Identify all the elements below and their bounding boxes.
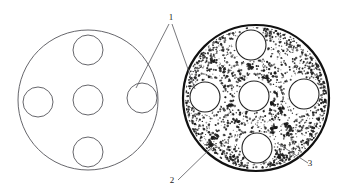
stipple-dot — [219, 58, 220, 59]
stipple-dot — [273, 110, 274, 111]
stipple-dot — [231, 90, 232, 91]
stipple-dot — [300, 129, 302, 131]
stipple-dot — [303, 51, 304, 52]
stipple-dot — [255, 123, 256, 124]
stipple-dot — [313, 138, 314, 139]
stipple-dot — [276, 116, 277, 117]
stipple-dot — [246, 162, 248, 164]
stipple-dot — [314, 64, 315, 65]
stipple-dot — [252, 126, 254, 128]
stipple-dot — [212, 113, 213, 114]
stipple-dot — [211, 136, 212, 137]
callout-1-label: 1 — [169, 12, 174, 22]
stipple-dot — [308, 62, 310, 64]
stipple-dot — [221, 82, 224, 85]
stipple-dot — [267, 77, 268, 78]
stipple-dot — [306, 138, 308, 140]
stipple-dot — [262, 65, 263, 66]
stipple-dot — [324, 86, 325, 87]
stipple-dot — [324, 110, 326, 112]
stipple-dot — [286, 51, 287, 52]
stipple-dot — [229, 100, 232, 103]
stipple-dot — [283, 60, 285, 62]
stipple-dot — [239, 86, 240, 87]
stipple-dot — [260, 116, 262, 118]
stipple-dot — [227, 120, 229, 122]
stipple-dot — [288, 117, 290, 119]
stipple-dot — [278, 38, 279, 39]
stipple-dot — [200, 65, 201, 66]
stipple-dot — [289, 160, 290, 161]
stipple-dot — [274, 138, 275, 139]
stipple-dot — [188, 79, 190, 81]
stipple-dot — [251, 122, 253, 124]
stipple-dot — [258, 77, 260, 79]
stipple-dot — [211, 132, 214, 135]
stipple-dot — [280, 62, 281, 63]
stipple-dot — [324, 112, 325, 113]
stipple-dot — [228, 136, 230, 138]
stipple-dot — [292, 41, 293, 42]
stipple-dot — [253, 167, 254, 168]
stipple-dot — [275, 126, 278, 129]
stipple-dot — [201, 140, 202, 141]
stipple-dot — [269, 136, 271, 138]
stipple-dot — [227, 53, 229, 55]
stipple-dot — [227, 69, 229, 71]
stipple-dot — [222, 54, 224, 56]
stipple-dot — [205, 114, 206, 115]
stipple-dot — [215, 77, 217, 79]
stipple-dot — [220, 145, 222, 147]
stipple-dot — [271, 115, 273, 117]
stipple-dot — [273, 84, 274, 85]
stipple-dot — [263, 69, 266, 72]
stipple-dot — [256, 65, 258, 67]
stipple-dot — [283, 83, 284, 84]
stipple-dot — [284, 93, 285, 94]
stipple-dot — [291, 75, 292, 76]
stipple-dot — [295, 148, 296, 149]
stipple-dot — [305, 128, 306, 129]
stipple-dot — [295, 129, 296, 130]
stipple-dot — [232, 162, 234, 164]
stipple-dot — [214, 144, 216, 146]
stipple-dot — [228, 113, 229, 114]
stipple-dot — [235, 76, 236, 77]
stipple-dot — [262, 116, 263, 117]
stipple-dot — [222, 119, 224, 121]
stipple-dot — [301, 51, 302, 52]
stipple-dot — [260, 122, 261, 123]
stipple-dot — [188, 114, 191, 117]
stipple-dot — [212, 150, 214, 152]
stipple-dot — [210, 77, 211, 78]
stipple-dot — [313, 68, 314, 69]
stipple-dot — [196, 129, 197, 130]
stipple-dot — [267, 166, 268, 167]
stipple-dot — [263, 110, 265, 112]
stipple-dot — [245, 111, 248, 114]
stipple-dot — [281, 129, 282, 130]
stipple-dot — [196, 67, 199, 70]
stipple-dot — [296, 47, 298, 49]
stipple-dot — [265, 167, 267, 169]
stipple-dot — [212, 47, 214, 49]
stipple-dot — [192, 86, 193, 87]
stipple-dot — [226, 55, 227, 56]
stipple-dot — [227, 91, 228, 92]
stipple-dot — [265, 131, 267, 133]
stipple-dot — [279, 151, 281, 153]
stipple-dot — [213, 59, 215, 61]
stipple-dot — [288, 152, 290, 154]
stipple-dot — [224, 39, 226, 41]
stipple-dot — [241, 122, 243, 124]
stipple-dot — [213, 50, 214, 51]
stipple-dot — [272, 39, 273, 40]
stipple-dot — [324, 113, 325, 114]
stipple-dot — [202, 115, 203, 116]
stipple-dot — [219, 70, 220, 71]
stipple-dot — [282, 58, 283, 59]
stipple-dot — [240, 133, 242, 135]
stipple-dot — [278, 45, 280, 47]
stipple-dot — [284, 49, 285, 50]
stipple-dot — [280, 110, 283, 113]
